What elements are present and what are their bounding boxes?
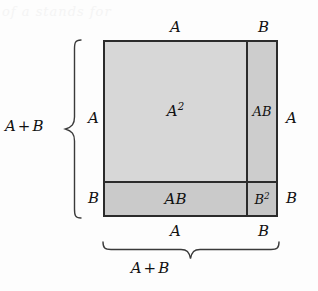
- scan-artifact-text: of a stands for: [2, 4, 114, 34]
- left-total-label: A+B: [5, 119, 43, 134]
- bottom-total-label: A+B: [131, 261, 169, 276]
- left-segment-label-a: A: [88, 111, 99, 126]
- region-b-squared-label: B2: [254, 193, 269, 206]
- region-ab-right-label: AB: [253, 105, 272, 118]
- left-segment-label-b: B: [88, 191, 99, 206]
- region-ab-bottom: AB: [105, 181, 246, 215]
- left-total-operator: +: [16, 117, 33, 135]
- region-b-squared: B2: [246, 181, 276, 215]
- region-a-squared-exponent: 2: [178, 101, 184, 112]
- left-brace-icon: [62, 38, 84, 220]
- bottom-brace-icon: [101, 240, 281, 262]
- region-b-squared-exponent: 2: [264, 190, 270, 200]
- right-segment-label-b: B: [286, 191, 297, 206]
- region-a-squared: A2: [105, 42, 246, 181]
- right-segment-label-a: A: [286, 111, 297, 126]
- bottom-segment-label-b: B: [258, 224, 269, 239]
- top-segment-label-b: B: [258, 20, 269, 35]
- bottom-segment-label-a: A: [170, 224, 181, 239]
- top-segment-label-a: A: [170, 20, 181, 35]
- region-ab-bottom-label: AB: [165, 192, 187, 207]
- bottom-total-operator: +: [142, 259, 159, 277]
- binomial-square-diagram: of a stands for A B A2 AB AB B2 A B A B …: [0, 0, 318, 291]
- binomial-square: A2 AB AB B2: [103, 40, 278, 217]
- region-ab-right: AB: [246, 42, 276, 181]
- region-a-squared-label: A2: [167, 104, 184, 119]
